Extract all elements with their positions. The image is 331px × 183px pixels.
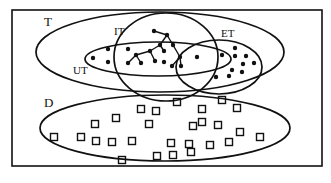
venn-diagram: T IT ET UT D: [0, 0, 331, 183]
label-T: T: [44, 14, 52, 29]
element-square: [170, 152, 177, 159]
element-dot: [214, 75, 218, 79]
element-square: [154, 153, 161, 160]
tree-node: [158, 43, 162, 47]
tree-node: [153, 59, 157, 63]
element-square: [109, 139, 116, 146]
element-dot: [106, 47, 110, 51]
element-dot: [240, 70, 244, 74]
tree-node: [134, 53, 138, 57]
set-t-ellipse: [36, 12, 284, 92]
element-dot: [230, 68, 234, 72]
label-ET: ET: [221, 27, 235, 39]
tree-node: [126, 61, 130, 65]
element-dot: [106, 60, 110, 64]
element-dot: [126, 47, 130, 51]
element-square: [92, 121, 99, 128]
set-d-ellipse: [40, 95, 290, 161]
element-dot: [162, 60, 166, 64]
set-it-ellipse: [114, 13, 218, 101]
element-square: [190, 123, 197, 130]
element-dot: [244, 54, 248, 58]
element-square: [199, 106, 206, 113]
element-dot: [91, 56, 95, 60]
label-IT: IT: [114, 25, 125, 37]
element-square: [146, 121, 153, 128]
element-square: [234, 105, 241, 112]
element-square: [153, 108, 160, 115]
tree-node: [165, 33, 169, 37]
tree-node: [170, 64, 174, 68]
element-square: [113, 115, 120, 122]
label-UT: UT: [73, 64, 88, 76]
element-dot: [233, 46, 237, 50]
tree-node: [171, 43, 175, 47]
element-dot: [195, 55, 199, 59]
element-square: [188, 149, 195, 156]
element-square: [138, 106, 145, 113]
tree-node: [139, 61, 143, 65]
tree-node: [179, 64, 183, 68]
tree-structure: [126, 29, 183, 68]
element-square: [207, 142, 214, 149]
tree-node: [148, 49, 152, 53]
element-square: [226, 139, 233, 146]
element-dot: [252, 61, 256, 65]
element-square: [199, 119, 206, 126]
tree-node: [152, 29, 156, 33]
set-et-ellipse: [176, 40, 262, 94]
element-square: [215, 122, 222, 129]
element-dot: [220, 53, 224, 57]
element-square: [168, 140, 175, 147]
element-square: [51, 134, 58, 141]
element-dot: [241, 62, 245, 66]
element-dot: [233, 54, 237, 58]
tree-node: [178, 55, 182, 59]
element-square: [186, 141, 193, 148]
element-square: [93, 138, 100, 145]
element-square: [237, 129, 244, 136]
element-square: [129, 138, 136, 145]
element-dot: [227, 74, 231, 78]
label-D: D: [44, 95, 53, 110]
element-square: [78, 134, 85, 141]
tree-node: [162, 49, 166, 53]
element-square: [257, 134, 264, 141]
element-dots: [91, 46, 256, 79]
